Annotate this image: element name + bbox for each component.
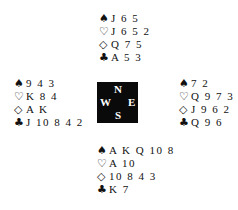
north-diamonds-row: ◇ Q 7 5 [99,38,151,51]
north-spades-cards: J 6 5 [111,12,139,25]
west-hearts-row: ♡ K 8 4 [14,90,84,103]
south-hearts-row: ♡ A 10 [97,157,175,170]
heart-icon: ♡ [97,157,109,170]
diamond-icon: ◇ [14,103,26,116]
south-spades-row: ♠ A K Q 10 8 [97,144,175,157]
east-diamonds-row: ◇ J 9 6 2 [179,103,234,116]
heart-icon: ♡ [179,90,191,103]
spade-icon: ♠ [14,77,26,90]
south-spades-cards: A K Q 10 8 [109,144,175,157]
west-diamonds-cards: A K [26,103,49,116]
heart-icon: ♡ [99,25,111,38]
west-hand: ♠ 9 4 3 ♡ K 8 4 ◇ A K ♣ J 10 8 4 2 [14,77,84,129]
north-hearts-row: ♡ J 6 5 2 [99,25,151,38]
south-diamonds-row: ◇ 10 8 4 3 [97,170,175,183]
diamond-icon: ◇ [97,170,109,183]
club-icon: ♣ [99,51,111,64]
south-hearts-cards: A 10 [109,157,136,170]
club-icon: ♣ [14,116,26,129]
west-spades-cards: 9 4 3 [26,77,56,90]
heart-icon: ♡ [14,90,26,103]
compass-north-label: N [114,84,122,95]
east-hearts-row: ♡ Q 9 7 3 [179,90,234,103]
east-diamonds-cards: J 9 6 2 [191,103,231,116]
club-icon: ♣ [179,116,191,129]
east-spades-row: ♠ 7 2 [179,77,234,90]
compass-east-label: E [128,97,135,108]
north-hand: ♠ J 6 5 ♡ J 6 5 2 ◇ Q 7 5 ♣ A 5 3 [99,12,151,64]
east-hand: ♠ 7 2 ♡ Q 9 7 3 ◇ J 9 6 2 ♣ Q 9 6 [179,77,234,129]
west-hearts-cards: K 8 4 [26,90,58,103]
east-hearts-cards: Q 9 7 3 [191,90,234,103]
spade-icon: ♠ [99,12,111,25]
north-hearts-cards: J 6 5 2 [111,25,151,38]
north-clubs-cards: A 5 3 [111,51,142,64]
diamond-icon: ◇ [179,103,191,116]
compass-box: N W E S [97,82,138,123]
spade-icon: ♠ [97,144,109,157]
east-clubs-row: ♣ Q 9 6 [179,116,234,129]
west-diamonds-row: ◇ A K [14,103,84,116]
south-diamonds-cards: 10 8 4 3 [109,170,157,183]
north-diamonds-cards: Q 7 5 [111,38,143,51]
south-clubs-cards: K 7 [109,183,130,196]
east-spades-cards: 7 2 [191,77,209,90]
north-spades-row: ♠ J 6 5 [99,12,151,25]
west-clubs-row: ♣ J 10 8 4 2 [14,116,84,129]
south-clubs-row: ♣ K 7 [97,183,175,196]
east-clubs-cards: Q 9 6 [191,116,223,129]
club-icon: ♣ [97,183,109,196]
west-spades-row: ♠ 9 4 3 [14,77,84,90]
diamond-icon: ◇ [99,38,111,51]
compass-south-label: S [115,110,121,121]
spade-icon: ♠ [179,77,191,90]
north-clubs-row: ♣ A 5 3 [99,51,151,64]
south-hand: ♠ A K Q 10 8 ♡ A 10 ◇ 10 8 4 3 ♣ K 7 [97,144,175,196]
west-clubs-cards: J 10 8 4 2 [26,116,84,129]
compass-west-label: W [100,97,111,108]
